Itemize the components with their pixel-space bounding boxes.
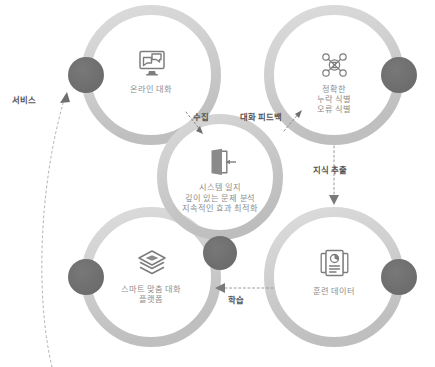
accent-dot-top-left — [68, 57, 104, 93]
ring-accurate-identification — [269, 10, 399, 140]
accent-dot-bottom-left — [68, 259, 104, 295]
accent-dot-group — [68, 57, 417, 295]
ring-training-data — [269, 212, 399, 342]
ring-system-log — [162, 119, 278, 235]
ring-group — [86, 10, 399, 342]
diagram-canvas: 온라인 대화 정확한 누락 식별 오류 식별 시스템 일지 깊이 있는 문제 분… — [0, 0, 435, 367]
accent-dot-center-bottom — [203, 236, 237, 270]
accent-dot-bottom-right — [381, 259, 417, 295]
accent-dot-top-right — [381, 57, 417, 93]
diagram-graphics — [0, 0, 435, 367]
connector-knowledge-extraction — [329, 146, 339, 205]
connector-learning — [215, 283, 273, 293]
connector-service — [42, 92, 70, 367]
